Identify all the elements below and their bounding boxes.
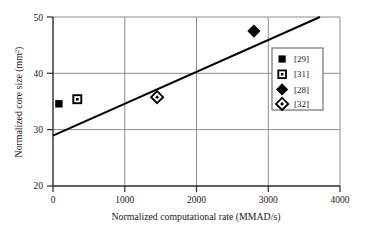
data-point-29-filled-square[interactable] <box>55 100 62 107</box>
ytick-label-30: 30 <box>34 125 44 135</box>
y-axis-title: Normalized core size (mm2) <box>13 47 25 158</box>
xtick-label-3000: 3000 <box>259 195 278 205</box>
ytick-label-20: 20 <box>34 181 44 191</box>
y-axis-title-base: Normalized core size (mm <box>13 53 25 158</box>
svg-text:Normalized core size (mm2): Normalized core size (mm2) <box>13 47 25 158</box>
ytick-label-40: 40 <box>34 69 44 79</box>
chart-figure: 50 40 30 20 0 1000 2000 3000 4000 Normal… <box>0 0 367 238</box>
xtick-label-1000: 1000 <box>115 195 134 205</box>
legend: [29] [31] [28] [32] <box>272 48 323 110</box>
xtick-label-4000: 4000 <box>331 195 350 205</box>
data-point-31-open-square[interactable] <box>73 95 81 103</box>
xtick-label-2000: 2000 <box>187 195 206 205</box>
legend-marker-open-square <box>278 70 286 78</box>
xtick-label-0: 0 <box>51 195 56 205</box>
legend-label-29: [29] <box>294 54 309 64</box>
y-axis-title-tail: ) <box>13 47 25 50</box>
scatter-plot: 50 40 30 20 0 1000 2000 3000 4000 Normal… <box>0 0 367 238</box>
y-axis-ticks <box>47 17 53 186</box>
legend-label-32: [32] <box>294 99 309 109</box>
legend-marker-filled-square <box>279 55 286 62</box>
legend-label-28: [28] <box>294 85 309 95</box>
ytick-label-50: 50 <box>34 13 44 23</box>
legend-label-31: [31] <box>294 69 309 79</box>
x-axis-title: Normalized computational rate (MMAD/s) <box>112 211 281 223</box>
x-axis-ticks <box>53 186 340 192</box>
